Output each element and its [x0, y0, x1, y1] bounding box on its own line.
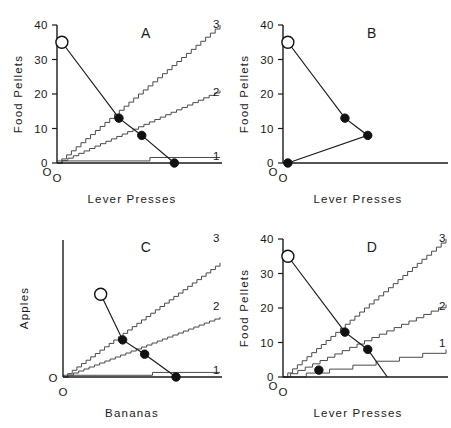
- schedule-label-2: 2: [213, 86, 219, 98]
- schedule-label-1: 1: [439, 337, 445, 349]
- panel-d-tick-labels: 40 30 20 10 0: [260, 233, 274, 383]
- schedule-label-1: 1: [213, 150, 219, 162]
- schedule-label-3: 3: [213, 18, 219, 30]
- schedule-line-2: [63, 317, 220, 377]
- data-point-open: [95, 288, 107, 300]
- schedule-label-3: 3: [439, 232, 445, 244]
- x-axis-title: Lever Presses: [313, 407, 402, 419]
- origin-label-x: O: [59, 386, 68, 398]
- schedule-label-2: 2: [213, 300, 219, 312]
- panel-a-schedule-lines: [57, 25, 220, 163]
- panel-a: 40 30 20 10 0 3 2 1 A O O Lever Press: [0, 0, 225, 214]
- demand-curve: [62, 42, 174, 163]
- schedule-line-1: [63, 372, 220, 375]
- demand-curve: [288, 256, 387, 377]
- origin-label-y: O: [269, 166, 278, 178]
- schedule-label-1: 1: [213, 364, 219, 376]
- panel-letter: D: [367, 239, 378, 255]
- panel-b-demand: [282, 36, 372, 167]
- panel-c-demand: [95, 288, 181, 381]
- y-tick-label-20: 20: [34, 88, 48, 100]
- origin-label-x: O: [279, 172, 288, 184]
- panel-a-demand: [56, 36, 179, 167]
- four-panel-figure: 40 30 20 10 0 3 2 1 A O O Lever Press: [0, 0, 451, 428]
- y-axis-title: Food Pellets: [238, 269, 250, 347]
- y-tick-label-10: 10: [34, 123, 48, 135]
- x-axis-title: Lever Presses: [313, 193, 402, 205]
- data-point-low: [315, 366, 323, 374]
- origin-label-y: O: [43, 166, 52, 178]
- panel-d-schedule-lines: [283, 239, 446, 377]
- y-tick-label-30: 30: [34, 54, 48, 66]
- y-tick-label-40: 40: [260, 19, 274, 31]
- schedule-line-2: [57, 91, 220, 163]
- schedule-label-2: 2: [439, 300, 445, 312]
- data-point-filled: [284, 159, 292, 167]
- data-point-filled: [364, 131, 372, 139]
- panel-c: 3 2 1 C O O Bananas Apples: [0, 214, 225, 428]
- origin-label-y: O: [269, 380, 278, 392]
- panel-a-labels: 3 2 1 A O O Lever Presses Food Pellets: [12, 18, 219, 205]
- schedule-line-3: [57, 25, 220, 163]
- schedule-line-3: [283, 239, 446, 377]
- schedule-line-2: [283, 305, 446, 377]
- schedule-line-1: [283, 349, 446, 377]
- panel-letter: C: [141, 239, 152, 255]
- panel-c-labels: 3 2 1 C O O Bananas Apples: [18, 232, 219, 419]
- data-point-open: [282, 250, 294, 262]
- origin-label-x: O: [53, 172, 62, 184]
- data-point-filled: [170, 159, 178, 167]
- y-tick-label-40: 40: [260, 233, 274, 245]
- data-point-filled: [341, 114, 349, 122]
- schedule-line-3: [63, 263, 220, 377]
- data-point-filled: [138, 131, 146, 139]
- panel-a-plot: 40 30 20 10 0 3 2 1 A O O Lever Press: [0, 0, 225, 214]
- demand-curve: [288, 42, 368, 163]
- data-point-filled: [118, 336, 126, 344]
- panel-d-plot: 40 30 20 10 0 3 2 1 D O O Lever Press: [226, 214, 451, 428]
- panel-d: 40 30 20 10 0 3 2 1 D O O Lever Press: [226, 214, 451, 428]
- data-point-filled: [172, 373, 180, 381]
- data-point-filled: [140, 350, 148, 358]
- panel-d-labels: 3 2 1 D O O Lever Presses Food Pellets: [238, 232, 445, 419]
- x-axis-title: Lever Presses: [87, 193, 176, 205]
- panel-b-labels: B O O Lever Presses Food Pellets: [238, 25, 403, 205]
- y-tick-label-40: 40: [34, 19, 48, 31]
- panel-b: 40 30 20 10 0 B O O Lever Presses Food P…: [226, 0, 451, 214]
- y-axis-title: Food Pellets: [238, 55, 250, 133]
- y-tick-label-10: 10: [260, 337, 274, 349]
- panel-letter: B: [367, 25, 377, 41]
- data-point-open: [56, 36, 68, 48]
- panel-a-tick-labels: 40 30 20 10 0: [34, 19, 48, 169]
- panel-d-demand: [282, 250, 387, 377]
- data-point-open: [282, 36, 294, 48]
- y-tick-label-10: 10: [260, 123, 274, 135]
- y-axis-title: Food Pellets: [12, 55, 24, 133]
- schedule-line-1: [57, 157, 220, 160]
- origin-label-y: O: [49, 372, 58, 384]
- data-point-filled: [341, 328, 349, 336]
- panel-b-axes: [278, 25, 448, 163]
- panel-b-tick-labels: 40 30 20 10 0: [260, 19, 274, 169]
- y-tick-label-30: 30: [260, 54, 274, 66]
- panel-b-plot: 40 30 20 10 0 B O O Lever Presses Food P…: [226, 0, 451, 214]
- panel-c-plot: 3 2 1 C O O Bananas Apples: [0, 214, 225, 428]
- y-tick-label-20: 20: [260, 302, 274, 314]
- schedule-label-3: 3: [213, 232, 219, 244]
- data-point-filled: [364, 345, 372, 353]
- y-axis-title: Apples: [18, 287, 30, 329]
- origin-label-x: O: [279, 386, 288, 398]
- y-tick-label-30: 30: [260, 268, 274, 280]
- data-point-filled: [115, 114, 123, 122]
- x-axis-title: Bananas: [105, 407, 159, 419]
- panel-c-schedule-lines: [63, 263, 220, 377]
- panel-letter: A: [141, 25, 151, 41]
- y-tick-label-20: 20: [260, 88, 274, 100]
